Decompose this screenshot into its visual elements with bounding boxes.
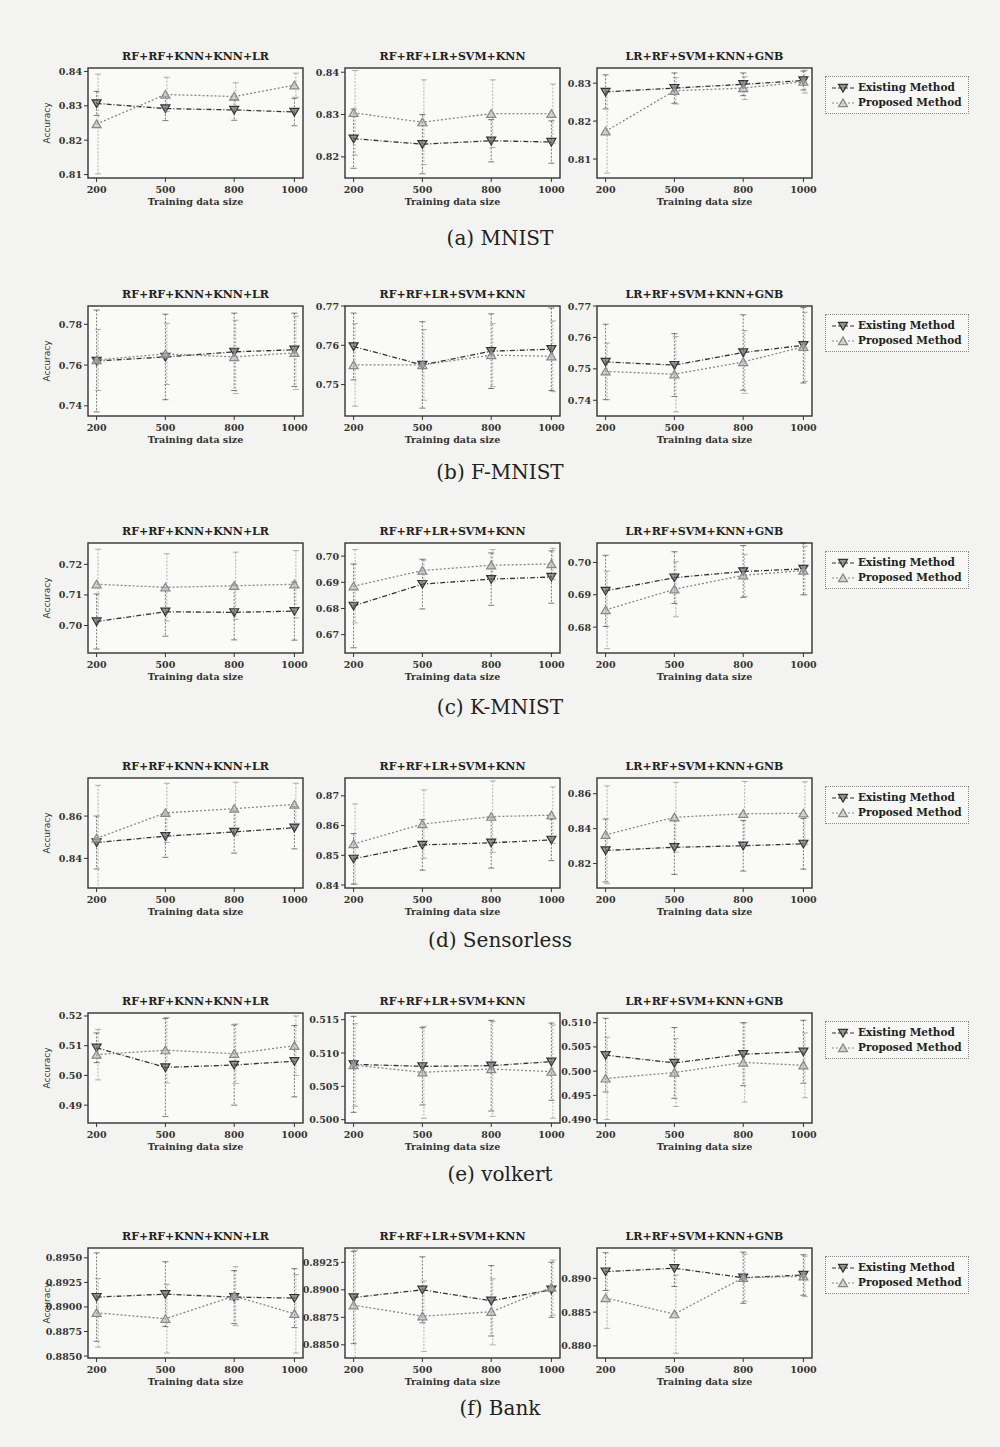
marker: [839, 1278, 848, 1286]
triangle-down-marker-icon: [832, 82, 854, 94]
marker: [839, 1043, 848, 1051]
legend-item-proposed: Proposed Method: [832, 1040, 962, 1055]
x-tick-label: 1000: [790, 1364, 817, 1375]
y-tick-label: 0.70: [568, 557, 592, 568]
subplot-lr-rf-svm-knn-gnb: LR+RF+SVM+KNN+GNB0.8800.8850.89020050080…: [0, 1220, 1000, 1424]
x-tick-label: 1000: [790, 184, 817, 195]
x-tick-label: 1000: [790, 1129, 817, 1140]
legend: Existing MethodProposed Method: [825, 314, 969, 352]
legend-item-proposed: Proposed Method: [832, 333, 962, 348]
legend-item-existing: Existing Method: [832, 1025, 962, 1040]
y-tick-label: 0.82: [568, 858, 591, 869]
y-tick-label: 0.890: [561, 1273, 591, 1284]
x-tick-label: 1000: [790, 659, 817, 670]
triangle-down-marker-icon: [832, 1262, 854, 1274]
y-tick-label: 0.82: [568, 116, 591, 127]
x-axis-label: Training data size: [657, 1141, 753, 1152]
y-tick-label: 0.490: [561, 1114, 591, 1125]
subplot-lr-rf-svm-knn-gnb: LR+RF+SVM+KNN+GNB0.680.690.7020050080010…: [0, 515, 1000, 719]
legend-label: Existing Method: [858, 80, 955, 95]
x-tick-label: 1000: [790, 894, 817, 905]
x-tick-label: 500: [664, 894, 684, 905]
x-tick-label: 500: [664, 659, 684, 670]
x-axis-label: Training data size: [657, 196, 753, 207]
x-tick-label: 200: [596, 1364, 616, 1375]
subfigure-caption: (d) Sensorless: [0, 928, 1000, 952]
legend-label: Proposed Method: [858, 805, 962, 820]
subfigure-caption: (a) MNIST: [0, 226, 1000, 250]
legend: Existing MethodProposed Method: [825, 1256, 969, 1294]
legend-label: Proposed Method: [858, 333, 962, 348]
subplot-title: LR+RF+SVM+KNN+GNB: [626, 525, 784, 538]
y-tick-label: 0.500: [561, 1066, 591, 1077]
x-tick-label: 500: [664, 1129, 684, 1140]
y-tick-label: 0.74: [568, 395, 592, 406]
x-tick-label: 200: [596, 422, 616, 433]
legend: Existing MethodProposed Method: [825, 76, 969, 114]
plot-area: [597, 543, 812, 653]
x-tick-label: 500: [664, 1364, 684, 1375]
y-tick-label: 0.76: [568, 332, 592, 343]
subplot-lr-rf-svm-knn-gnb: LR+RF+SVM+KNN+GNB0.4900.4950.5000.5050.5…: [0, 985, 1000, 1189]
x-tick-label: 200: [596, 659, 616, 670]
y-tick-label: 0.86: [568, 788, 592, 799]
legend-label: Existing Method: [858, 1260, 955, 1275]
triangle-down-marker-icon: [832, 557, 854, 569]
y-tick-label: 0.68: [568, 622, 592, 633]
legend-item-proposed: Proposed Method: [832, 570, 962, 585]
subplot-lr-rf-svm-knn-gnb: LR+RF+SVM+KNN+GNB0.810.820.8320050080010…: [0, 40, 1000, 244]
triangle-up-marker-icon: [832, 572, 854, 584]
triangle-up-marker-icon: [832, 807, 854, 819]
y-tick-label: 0.880: [561, 1340, 591, 1351]
legend-item-existing: Existing Method: [832, 1260, 962, 1275]
x-axis-label: Training data size: [657, 434, 753, 445]
x-tick-label: 500: [664, 422, 684, 433]
subfigure-caption: (f) Bank: [0, 1396, 1000, 1420]
subplot-lr-rf-svm-knn-gnb: LR+RF+SVM+KNN+GNB0.740.750.760.772005008…: [0, 278, 1000, 482]
x-tick-label: 800: [733, 1364, 753, 1375]
legend-label: Existing Method: [858, 555, 955, 570]
subplot-title: LR+RF+SVM+KNN+GNB: [626, 760, 784, 773]
plot-area: [597, 306, 812, 416]
y-tick-label: 0.505: [561, 1041, 591, 1052]
x-tick-label: 1000: [790, 422, 817, 433]
subplot-lr-rf-svm-knn-gnb: LR+RF+SVM+KNN+GNB0.820.840.8620050080010…: [0, 750, 1000, 954]
marker: [839, 98, 848, 106]
triangle-down-marker-icon: [832, 792, 854, 804]
triangle-down-marker-icon: [832, 320, 854, 332]
legend-label: Existing Method: [858, 790, 955, 805]
plot-area: [597, 1013, 812, 1123]
x-tick-label: 200: [596, 894, 616, 905]
subfigure-caption: (b) F-MNIST: [0, 460, 1000, 484]
plot-area: [597, 778, 812, 888]
legend: Existing MethodProposed Method: [825, 1021, 969, 1059]
subfigure-caption: (c) K-MNIST: [0, 695, 1000, 719]
legend-label: Proposed Method: [858, 570, 962, 585]
triangle-down-marker-icon: [832, 1027, 854, 1039]
subplot-title: LR+RF+SVM+KNN+GNB: [626, 50, 784, 63]
triangle-up-marker-icon: [832, 1277, 854, 1289]
legend-label: Proposed Method: [858, 1040, 962, 1055]
legend-item-existing: Existing Method: [832, 790, 962, 805]
legend-item-proposed: Proposed Method: [832, 805, 962, 820]
y-tick-label: 0.75: [568, 363, 591, 374]
legend-label: Proposed Method: [858, 95, 962, 110]
x-tick-label: 800: [733, 659, 753, 670]
y-tick-label: 0.510: [561, 1017, 591, 1028]
legend-item-existing: Existing Method: [832, 80, 962, 95]
x-axis-label: Training data size: [657, 906, 753, 917]
subplot-title: LR+RF+SVM+KNN+GNB: [626, 995, 784, 1008]
triangle-up-marker-icon: [832, 1042, 854, 1054]
subplot-title: LR+RF+SVM+KNN+GNB: [626, 1230, 784, 1243]
x-tick-label: 200: [596, 184, 616, 195]
marker: [839, 336, 848, 344]
x-tick-label: 800: [733, 422, 753, 433]
legend-label: Existing Method: [858, 1025, 955, 1040]
y-tick-label: 0.81: [568, 154, 591, 165]
x-tick-label: 200: [596, 1129, 616, 1140]
legend-item-existing: Existing Method: [832, 555, 962, 570]
marker: [839, 573, 848, 581]
y-tick-label: 0.83: [568, 78, 591, 89]
x-tick-label: 800: [733, 1129, 753, 1140]
y-tick-label: 0.77: [568, 301, 591, 312]
